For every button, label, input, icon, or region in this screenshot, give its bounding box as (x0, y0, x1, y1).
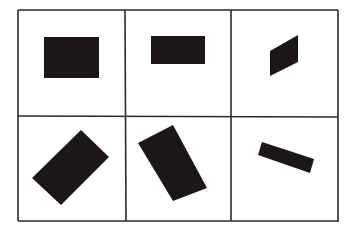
figure-canvas (0, 0, 355, 233)
panel-1-2-rectangle (151, 36, 205, 64)
grid-divider-vertical-1 (125, 10, 126, 221)
grid-divider-horizontal (18, 116, 338, 117)
shape-grid-figure (0, 0, 355, 233)
panel-1-1-rectangle (44, 37, 99, 78)
